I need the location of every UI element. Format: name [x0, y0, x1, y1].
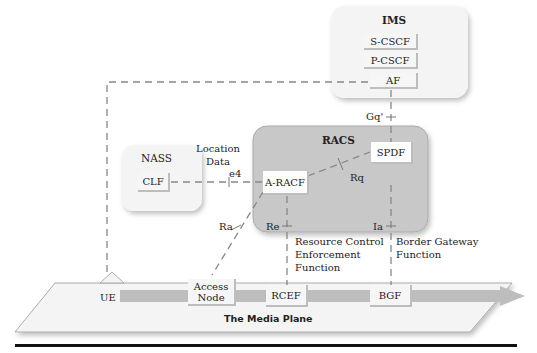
e4-interface-label: e4 [229, 168, 241, 180]
spdf-node: SPDF [371, 142, 413, 164]
ia-interface-label: Ia [373, 221, 383, 233]
ue-node: UE [100, 292, 116, 304]
bgf-description-line2: Function [396, 249, 441, 261]
bgf-node: BGF [370, 285, 412, 307]
ue-bump [100, 272, 124, 283]
access-node-line1: Access [194, 281, 229, 292]
rcef-description-line3: Function [295, 262, 340, 274]
p-cscf-node: P-CSCF [364, 53, 418, 69]
a-racf-node: A-RACF [263, 171, 309, 195]
af-node: AF [370, 73, 418, 89]
rcef-description-line2: Enforcement [295, 249, 361, 261]
location-data-line1: Location [196, 143, 240, 155]
rcef-description-line1: Resource Control [295, 236, 384, 248]
access-node-line2: Node [197, 292, 224, 303]
ims-label: IMS [382, 14, 406, 26]
nass-label: NASS [141, 152, 172, 164]
gq-interface-label: Gq' [366, 111, 383, 123]
re-interface-label: Re [266, 221, 279, 233]
rcef-node: RCEF [266, 285, 308, 307]
clf-node: CLF [138, 173, 170, 192]
ra-link [212, 192, 263, 275]
location-data-line2: Data [206, 156, 230, 168]
s-cscf-node: S-CSCF [364, 34, 418, 50]
media-plane-label: The Media Plane [224, 313, 313, 325]
bottom-rule [15, 344, 517, 347]
ra-interface-label: Ra [219, 221, 233, 233]
rq-interface-label: Rq [350, 172, 364, 184]
racs-label: RACS [322, 134, 355, 146]
access-node: Access Node [188, 279, 236, 306]
bgf-description-line1: Border Gateway [396, 236, 479, 248]
